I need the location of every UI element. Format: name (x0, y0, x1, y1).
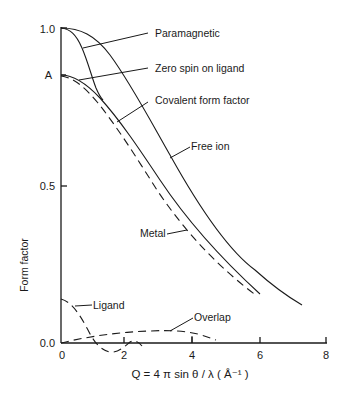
y-tick-label-1: 1.0 (40, 23, 55, 35)
curve-covalent (61, 75, 260, 294)
curve-paramagnetic (61, 28, 103, 100)
y-tick-label-0-5: 0.5 (40, 180, 55, 192)
leader-overlap (170, 318, 193, 331)
leader-paramagnetic (83, 33, 148, 48)
leader-ligand (75, 305, 92, 306)
x-axis-title: Q = 4 π sin θ / λ ( Å⁻¹ ) (131, 368, 248, 380)
label-ligand: Ligand (93, 299, 125, 311)
y-axis-title: Form factor (18, 238, 30, 292)
x-tick-label-8: 8 (323, 349, 329, 361)
x-tick-label-6: 6 (257, 349, 263, 361)
y-marker-a: A (45, 69, 53, 81)
label-overlap: Overlap (194, 311, 231, 323)
label-covalent: Covalent form factor (155, 94, 250, 106)
label-free-ion: Free ion (191, 140, 230, 152)
y-tick-label-0: 0.0 (40, 337, 55, 349)
x-tick-label-2: 2 (121, 349, 127, 361)
label-zero-spin: Zero spin on ligand (155, 62, 244, 74)
leader-metal (167, 230, 187, 234)
leader-covalent (117, 102, 148, 122)
label-metal: Metal (140, 227, 166, 239)
label-paramagnetic: Paramagnetic (155, 27, 220, 39)
x-tick-label-4: 4 (189, 349, 195, 361)
leader-free-ion (170, 147, 190, 158)
curve-overlap (61, 331, 216, 343)
form-factor-chart: 1.0 0.5 0.0 A 0 2 4 6 8 Form factor Q = … (0, 0, 344, 395)
x-tick-label-0: 0 (59, 349, 65, 361)
